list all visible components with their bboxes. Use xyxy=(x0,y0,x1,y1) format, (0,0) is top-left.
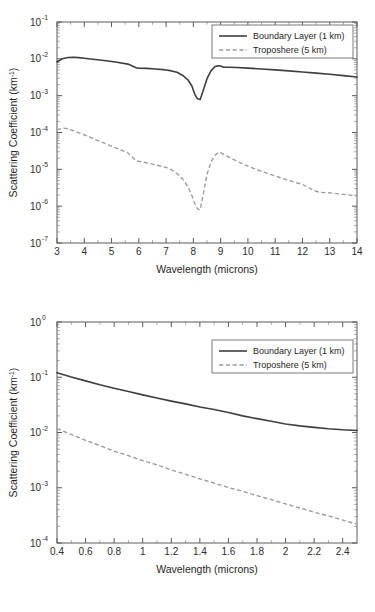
y-tick-label: 10 xyxy=(30,53,42,64)
y-tick-exponent: -3 xyxy=(42,88,48,95)
x-tick-label: 6 xyxy=(136,246,142,257)
y-tick-label: 10 xyxy=(30,127,42,138)
y-tick-label: 10 xyxy=(30,427,42,438)
x-tick-label: 1.4 xyxy=(193,546,207,557)
y-tick-label: 10 xyxy=(30,201,42,212)
y-tick-label: 10 xyxy=(30,17,42,28)
chart-legend[interactable]: Boundary Layer (1 km)Troposhere (5 km) xyxy=(212,25,353,58)
x-tick-label: 9 xyxy=(218,246,224,257)
x-tick-label: 0.8 xyxy=(107,546,121,557)
y-tick-exponent: -2 xyxy=(42,425,48,432)
x-tick-label: 2 xyxy=(283,546,289,557)
y-tick-label: 10 xyxy=(30,372,42,383)
x-tick-label: 4 xyxy=(81,246,87,257)
x-tick-label: 2.2 xyxy=(307,546,321,557)
y-tick-exponent: -2 xyxy=(42,51,48,58)
x-tick-label: 1.6 xyxy=(221,546,235,557)
y-tick-exponent: -5 xyxy=(42,161,48,168)
x-axis-title: Wavelength (microns) xyxy=(156,563,258,575)
y-tick-label: 10 xyxy=(30,90,42,101)
x-axis-title: Wavelength (microns) xyxy=(156,263,258,275)
y-tick-label: 10 xyxy=(30,164,42,175)
x-tick-label: 2.4 xyxy=(336,546,350,557)
y-tick-label: 10 xyxy=(30,317,42,328)
visible-scattering-chart: 0.40.60.811.21.41.61.822.22.410010-110-2… xyxy=(0,300,375,612)
x-tick-label: 14 xyxy=(351,246,363,257)
y-tick-exponent: -1 xyxy=(42,369,48,376)
x-tick-label: 1 xyxy=(140,546,146,557)
chart-panel-infrared: 3456789101112131410-110-210-310-410-510-… xyxy=(0,0,375,300)
chart-legend[interactable]: Boundary Layer (1 km)Troposhere (5 km) xyxy=(212,340,353,373)
figure-stack: 3456789101112131410-110-210-310-410-510-… xyxy=(0,0,375,612)
legend-label: Boundary Layer (1 km) xyxy=(253,31,345,41)
x-tick-label: 10 xyxy=(242,246,254,257)
x-tick-label: 8 xyxy=(191,246,197,257)
chart-panel-visible: 0.40.60.811.21.41.61.822.22.410010-110-2… xyxy=(0,300,375,612)
legend-label: Troposhere (5 km) xyxy=(253,45,327,55)
y-tick-label: 10 xyxy=(30,238,42,249)
x-tick-label: 0.4 xyxy=(50,546,64,557)
y-tick-exponent: -7 xyxy=(42,235,48,242)
x-tick-label: 7 xyxy=(163,246,169,257)
infrared-scattering-chart: 3456789101112131410-110-210-310-410-510-… xyxy=(0,0,375,300)
legend-label: Boundary Layer (1 km) xyxy=(253,346,345,356)
x-tick-label: 5 xyxy=(109,246,115,257)
y-tick-label: 10 xyxy=(30,538,42,549)
y-axis-title: Scattering Coefficient (km-1) xyxy=(7,68,19,198)
legend-label: Troposhere (5 km) xyxy=(253,360,327,370)
x-tick-label: 0.6 xyxy=(79,546,93,557)
y-tick-exponent: -4 xyxy=(42,535,48,542)
y-tick-exponent: -4 xyxy=(42,125,48,132)
x-tick-label: 1.2 xyxy=(164,546,178,557)
y-axis-title: Scattering Coefficient (km-1) xyxy=(7,368,19,498)
y-tick-exponent: 0 xyxy=(42,314,46,321)
y-tick-exponent: -1 xyxy=(42,14,48,21)
x-tick-label: 13 xyxy=(324,246,336,257)
x-tick-label: 11 xyxy=(270,246,281,257)
y-tick-label: 10 xyxy=(30,482,42,493)
y-tick-exponent: -6 xyxy=(42,198,48,205)
x-tick-label: 3 xyxy=(54,246,60,257)
x-tick-label: 1.8 xyxy=(250,546,264,557)
x-tick-label: 12 xyxy=(297,246,309,257)
y-tick-exponent: -3 xyxy=(42,480,48,487)
